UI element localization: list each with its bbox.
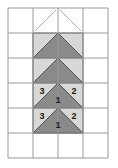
pattern-canvas: 3 2 1 3 2 1 bbox=[0, 0, 118, 168]
piece-label-3-lower-left: 3 bbox=[39, 111, 44, 121]
piece-label-2-lower-right: 2 bbox=[71, 111, 76, 121]
piece-label-1-lower-center: 1 bbox=[55, 120, 60, 130]
piece-label-3-upper-left: 3 bbox=[39, 86, 44, 96]
piece-label-1-upper-center: 1 bbox=[55, 95, 60, 105]
piece-label-2-upper-right: 2 bbox=[71, 86, 76, 96]
quilt-pattern-diagram: 3 2 1 3 2 1 bbox=[0, 0, 118, 168]
